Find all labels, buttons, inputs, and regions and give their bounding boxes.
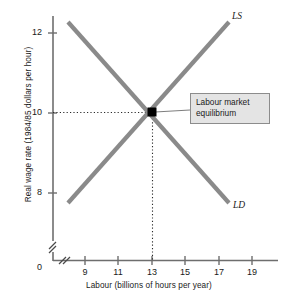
x-axis-title: Labour (billions of hours per year) bbox=[86, 281, 212, 290]
chart-plot-area bbox=[0, 0, 282, 299]
callout-line-2: equilibrium bbox=[196, 108, 265, 119]
callout-line-1: Labour market bbox=[196, 97, 265, 108]
labour-demand-curve-label: LD bbox=[233, 200, 245, 210]
x-tick-label-13: 13 bbox=[142, 267, 162, 277]
x-tick-label-17: 17 bbox=[209, 267, 229, 277]
x-tick-label-19: 19 bbox=[242, 267, 262, 277]
x-tick-label-15: 15 bbox=[175, 267, 195, 277]
y-tick-label-8: 8 bbox=[22, 187, 42, 197]
y-axis-title: Real wage rate (1984/85 dollars per hour… bbox=[24, 45, 33, 205]
y-tick-label-10: 10 bbox=[22, 107, 42, 117]
equilibrium-callout-box: Labour market equilibrium bbox=[190, 93, 270, 124]
y-axis-break-icon bbox=[49, 242, 56, 253]
origin-label: 0 bbox=[22, 262, 42, 272]
x-tick-label-11: 11 bbox=[108, 267, 128, 277]
labour-supply-curve-label: LS bbox=[232, 11, 242, 21]
x-tick-label-9: 9 bbox=[75, 267, 95, 277]
y-tick-label-12: 12 bbox=[22, 27, 42, 37]
labour-market-equilibrium-chart: Real wage rate (1984/85 dollars per hour… bbox=[0, 0, 282, 299]
callout-leader-line bbox=[155, 110, 190, 112]
equilibrium-point-marker bbox=[148, 108, 157, 117]
